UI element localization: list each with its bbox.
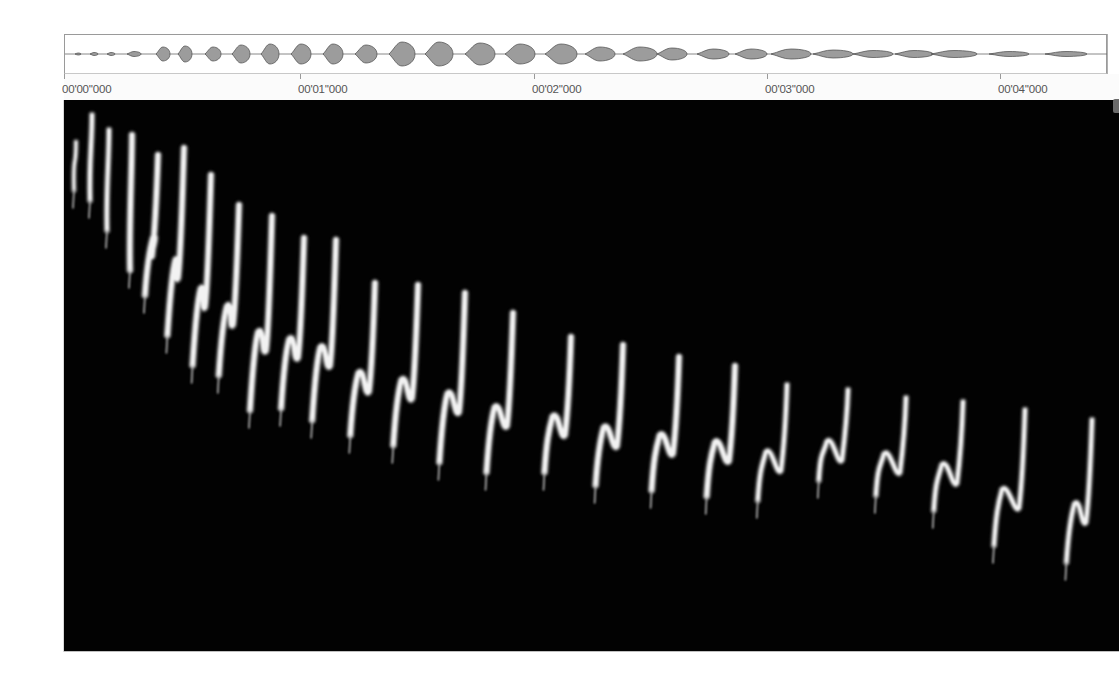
vertical-scroll-thumb[interactable]: [1113, 99, 1119, 113]
ruler-tick: [534, 74, 535, 79]
call-syllable: [167, 148, 184, 335]
waveform-syllable: [545, 44, 577, 64]
call-tail: [486, 472, 487, 490]
waveform-syllable: [323, 44, 343, 64]
waveform-syllable: [232, 45, 250, 63]
time-ruler[interactable]: 00'00''000 00'01''000 00'02''000 00'03''…: [64, 74, 1119, 100]
ruler-tick: [1000, 74, 1001, 79]
waveform-overview[interactable]: [64, 34, 1107, 74]
waveform-syllable: [205, 47, 221, 61]
spectrogram-view[interactable]: [64, 100, 1119, 652]
waveform-syllable: [931, 51, 977, 58]
call-tail: [89, 200, 90, 218]
call-tail: [106, 230, 107, 248]
sound-analysis-app: 00'00''000 00'01''000 00'02''000 00'03''…: [0, 0, 1119, 694]
waveform-syllable: [107, 53, 115, 56]
call-tail: [392, 445, 393, 463]
waveform-syllable: [771, 49, 811, 59]
waveform-syllable: [657, 48, 687, 60]
waveform-syllable: [355, 45, 377, 63]
call-tail: [73, 190, 74, 208]
call-tail: [218, 375, 219, 393]
waveform-syllable: [291, 44, 311, 64]
time-label-4s: 00'04''000: [998, 83, 1047, 95]
spectrogram-graphic: [64, 100, 1119, 652]
waveform-graphic: [65, 35, 1108, 75]
overview-edge-divider: [1107, 34, 1108, 74]
ruler-tick: [64, 74, 65, 79]
waveform-syllable: [465, 43, 495, 65]
call-tail: [933, 510, 934, 528]
waveform-syllable: [989, 52, 1029, 57]
call-tail: [192, 365, 193, 383]
waveform-syllable: [90, 53, 98, 56]
call-tail: [349, 435, 350, 453]
waveform-syllable: [505, 44, 535, 64]
waveform-syllable: [178, 46, 192, 62]
call-tail: [595, 485, 596, 503]
waveform-syllable: [895, 51, 933, 58]
call-tail: [280, 408, 281, 426]
call-tail: [129, 270, 130, 288]
time-label-0s: 00'00''000: [62, 83, 111, 95]
call-tail: [166, 335, 167, 353]
spectrogram-bottom-border: [64, 651, 1119, 652]
waveform-syllable: [127, 52, 141, 57]
call-tail: [993, 545, 994, 563]
time-label-2s: 00'02''000: [532, 83, 581, 95]
waveform-syllable: [853, 51, 893, 58]
waveform-syllable: [156, 47, 170, 61]
waveform-syllable: [389, 42, 415, 66]
ruler-tick: [300, 74, 301, 79]
call-tail: [1065, 562, 1066, 580]
waveform-syllable: [1045, 52, 1087, 57]
call-syllable: [90, 115, 92, 200]
waveform-syllable: [735, 49, 767, 59]
time-label-1s: 00'01''000: [298, 83, 347, 95]
call-tail: [144, 295, 145, 313]
waveform-syllable: [261, 44, 279, 64]
call-syllable: [219, 205, 239, 375]
waveform-syllable: [623, 47, 657, 61]
call-syllable: [107, 130, 109, 230]
waveform-syllable: [813, 50, 853, 58]
call-tail: [544, 472, 545, 490]
call-syllable: [193, 175, 211, 365]
call-tail: [875, 495, 876, 513]
time-label-3s: 00'03''000: [765, 83, 814, 95]
call-tail: [249, 410, 250, 428]
call-tail: [311, 420, 312, 438]
call-syllable: [130, 135, 132, 270]
call-tail: [706, 496, 707, 514]
ruler-tick: [767, 74, 768, 79]
call-tail: [757, 500, 758, 518]
waveform-syllable: [585, 47, 615, 61]
call-tail: [818, 480, 819, 498]
call-syllable: [250, 216, 272, 410]
waveform-syllable: [425, 42, 453, 66]
call-tail: [438, 462, 439, 480]
waveform-syllable: [75, 53, 81, 55]
call-tail: [651, 490, 652, 508]
waveform-syllable: [697, 49, 729, 59]
